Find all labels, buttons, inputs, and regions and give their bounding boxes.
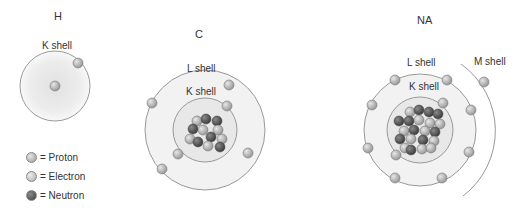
carbon-title: C — [195, 28, 203, 40]
legend-neutron: = Neutron — [26, 190, 84, 201]
sodium-l-shell-label: L shell — [407, 57, 436, 68]
legend-proton: = Proton — [26, 152, 78, 163]
legend-neutron-label: = Neutron — [40, 190, 84, 201]
sodium-title: NA — [417, 14, 432, 26]
carbon-k-shell-label: K shell — [186, 86, 216, 97]
carbon-l-shell-label: L shell — [187, 63, 216, 74]
hydrogen-k-shell-label: K shell — [42, 40, 72, 51]
neutron-icon — [26, 190, 37, 201]
proton-icon — [26, 152, 37, 163]
legend-proton-label: = Proton — [40, 152, 78, 163]
sodium-m-shell-label: M shell — [474, 56, 506, 67]
hydrogen-title: H — [54, 10, 62, 22]
legend-electron-label: = Electron — [40, 171, 85, 182]
electron-icon — [26, 171, 37, 182]
legend-electron: = Electron — [26, 171, 85, 182]
sodium-k-shell-label: K shell — [409, 81, 439, 92]
hydrogen-atom — [20, 51, 90, 121]
